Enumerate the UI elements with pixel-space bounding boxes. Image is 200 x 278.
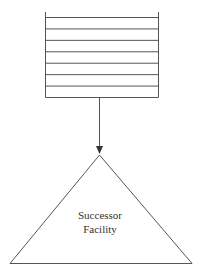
facility-label-line-1: Successor: [78, 209, 122, 221]
successor-facility: Successor Facility: [10, 155, 192, 264]
flow-arrow: [96, 98, 103, 155]
queue-stack: [46, 12, 159, 98]
diagram-canvas: Successor Facility: [0, 0, 200, 278]
arrowhead-icon: [96, 146, 103, 154]
facility-label-line-2: Facility: [83, 223, 117, 235]
